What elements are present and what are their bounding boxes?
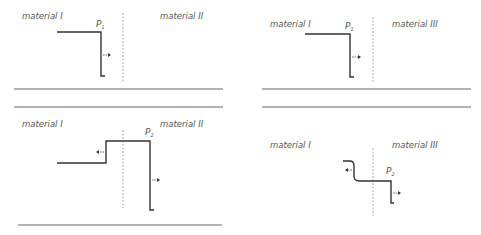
- pulse-label: P2: [145, 127, 154, 138]
- pulse-label: P1: [96, 19, 105, 30]
- left-material-label: material I: [22, 119, 63, 129]
- left-material-label: material I: [270, 140, 311, 150]
- right-material-label: material II: [160, 119, 204, 129]
- pulse-label: P1: [345, 21, 354, 32]
- right-material-label: material II: [160, 11, 204, 21]
- propagation-arrow-right-icon: [352, 55, 361, 59]
- panel-top-left: material I material II P1: [22, 11, 204, 82]
- left-material-label: material I: [270, 19, 311, 29]
- transmission-arrow-right-icon: [152, 178, 160, 182]
- reflection-arrow-left-icon: [96, 150, 104, 154]
- panel-bottom-right: material I material III P2: [270, 140, 438, 216]
- pulse-label: P2: [386, 166, 395, 177]
- incident-pulse-wave: [57, 32, 105, 76]
- propagation-arrow-right-icon: [103, 53, 111, 57]
- right-material-label: material III: [392, 19, 438, 29]
- left-material-label: material I: [22, 11, 63, 21]
- transmission-arrow-right-icon: [393, 191, 401, 195]
- reflected-transmitted-wave: [57, 141, 154, 210]
- right-material-label: material III: [392, 140, 438, 150]
- panel-bottom-left: material I material II P2: [22, 119, 204, 210]
- stress-wave-diagram: material I material II P1 material I mat…: [0, 0, 481, 235]
- incident-pulse-wave: [305, 34, 354, 77]
- panel-top-right: material I material III P1: [270, 17, 438, 83]
- reflection-arrow-left-icon: [345, 168, 352, 172]
